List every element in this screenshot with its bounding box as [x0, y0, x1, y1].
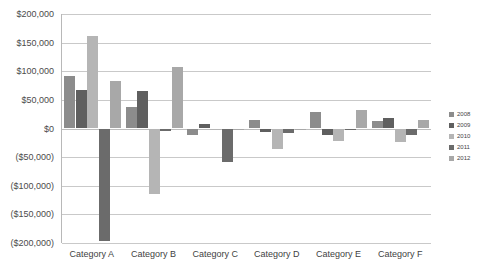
bar: [310, 112, 321, 128]
legend: 20082009201020112012: [449, 109, 487, 164]
plot-area: [61, 14, 431, 243]
bar: [249, 120, 260, 128]
bar: [64, 76, 75, 129]
bar: [272, 129, 283, 149]
legend-item[interactable]: 2011: [449, 142, 487, 152]
legend-label: 2010: [457, 133, 470, 140]
y-axis-labels: $200,000$150,000$100,000$50,000$0($50,00…: [0, 0, 58, 274]
bar-group: [370, 14, 432, 243]
y-axis-tick-label: $150,000: [16, 38, 54, 48]
bar-group: [247, 14, 309, 243]
bar: [187, 129, 198, 136]
bar: [210, 129, 221, 131]
bar: [395, 129, 406, 142]
x-axis-category-label: Category B: [123, 249, 185, 259]
bar-groups: [62, 14, 431, 243]
bar: [418, 120, 429, 129]
x-axis-category-label: Category F: [369, 249, 431, 259]
y-axis-tick-label: ($200,000): [10, 238, 54, 248]
y-axis-tick-label: $100,000: [16, 66, 54, 76]
bar: [199, 124, 210, 129]
bar: [345, 129, 356, 130]
bar: [383, 118, 394, 129]
bar: [149, 129, 160, 195]
x-axis-category-label: Category C: [184, 249, 246, 259]
gridline: [62, 243, 431, 244]
bar-group: [62, 14, 124, 243]
bar: [137, 91, 148, 128]
bar: [87, 36, 98, 128]
x-axis-category-label: Category E: [308, 249, 370, 259]
bar: [110, 81, 121, 129]
bar: [260, 129, 271, 132]
bar: [172, 67, 183, 129]
bar: [160, 129, 171, 132]
legend-label: 2008: [457, 111, 470, 118]
x-axis-category-label: Category A: [61, 249, 123, 259]
bar-chart: $200,000$150,000$100,000$50,000$0($50,00…: [0, 0, 489, 274]
x-axis-labels: Category ACategory BCategory CCategory D…: [61, 249, 431, 259]
legend-label: 2012: [457, 155, 470, 162]
bar: [322, 129, 333, 135]
bar: [283, 129, 294, 134]
bar: [76, 90, 87, 129]
y-axis-tick-label: ($100,000): [10, 181, 54, 191]
bar-group: [185, 14, 247, 243]
legend-item[interactable]: 2012: [449, 153, 487, 163]
bar-group: [124, 14, 186, 243]
y-axis-tick-label: $0: [44, 124, 54, 134]
bar: [406, 129, 417, 136]
y-axis-tick-label: ($150,000): [10, 209, 54, 219]
x-axis-category-label: Category D: [246, 249, 308, 259]
y-axis-tick-label: $200,000: [16, 9, 54, 19]
legend-item[interactable]: 2008: [449, 109, 487, 119]
legend-swatch-icon: [449, 145, 454, 150]
bar: [99, 129, 110, 241]
y-axis-tick-label: $50,000: [21, 95, 54, 105]
legend-swatch-icon: [449, 123, 454, 128]
legend-swatch-icon: [449, 134, 454, 139]
legend-label: 2009: [457, 122, 470, 129]
legend-swatch-icon: [449, 112, 454, 117]
legend-label: 2011: [457, 144, 470, 151]
legend-item[interactable]: 2010: [449, 131, 487, 141]
bar: [222, 129, 233, 162]
bar-group: [308, 14, 370, 243]
y-axis-tick-label: ($50,000): [15, 152, 54, 162]
bar: [333, 129, 344, 142]
bar: [295, 129, 306, 130]
legend-item[interactable]: 2009: [449, 120, 487, 130]
bar: [372, 121, 383, 128]
bar: [233, 129, 244, 130]
bar: [126, 107, 137, 128]
bar: [356, 110, 367, 129]
legend-swatch-icon: [449, 156, 454, 161]
